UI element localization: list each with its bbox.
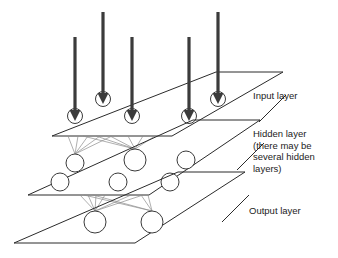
input-arrows-group	[70, 12, 224, 121]
input-arrow	[70, 37, 81, 121]
input-layer-plane	[52, 72, 283, 136]
hidden-layer-label-line4: layers)	[253, 163, 282, 174]
output-node	[84, 211, 106, 233]
hidden-layer-label-line3: several hidden	[253, 151, 315, 162]
output-layer-plane	[14, 172, 245, 243]
output-layer-group	[14, 172, 245, 243]
hidden-layer-label-line2: (there may be	[253, 140, 312, 151]
input-arrow	[98, 12, 109, 104]
output-leader-line	[222, 195, 249, 222]
hidden-node	[124, 149, 146, 171]
output-node	[141, 211, 163, 233]
input-arrow	[127, 37, 138, 121]
diagram-labels: Input layer Hidden layer (there may be s…	[249, 90, 315, 216]
hidden-output-synapses	[80, 195, 152, 211]
input-arrow	[184, 37, 195, 121]
hidden-node	[51, 173, 69, 191]
hidden-node	[109, 173, 127, 191]
hidden-layer-label-line1: Hidden layer	[253, 128, 306, 139]
diagram-canvas: Input layer Hidden layer (there may be s…	[0, 0, 338, 258]
input-layer-group	[52, 72, 283, 136]
input-layer-label: Input layer	[253, 90, 297, 101]
hidden-node	[177, 151, 195, 169]
hidden-node	[66, 154, 84, 172]
input-arrow	[213, 12, 224, 104]
neural-network-diagram: Input layer Hidden layer (there may be s…	[0, 0, 338, 258]
output-layer-label: Output layer	[249, 205, 301, 216]
